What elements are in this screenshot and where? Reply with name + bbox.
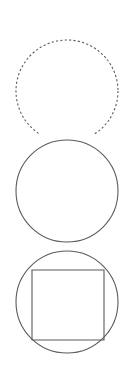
plain-circle-canvas	[0, 132, 134, 250]
figure-plain-circle	[0, 132, 134, 250]
plain-circle-shape	[16, 140, 118, 242]
dashed-circle-canvas	[0, 16, 134, 134]
dashed-circle-shape	[16, 40, 118, 134]
figure-circle-with-inscribed-square	[0, 243, 134, 361]
outer-circle-shape	[16, 251, 118, 353]
figure-stack	[0, 0, 134, 376]
circle-square-canvas	[0, 243, 134, 361]
inscribed-square-shape	[32, 270, 104, 340]
figure-dashed-circle	[0, 16, 134, 134]
